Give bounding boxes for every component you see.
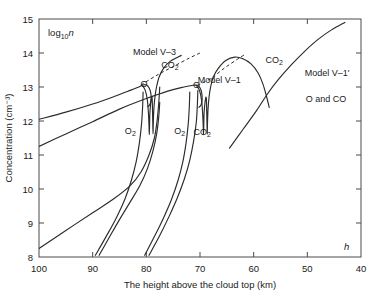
x-tick-label-100: 100	[31, 263, 47, 274]
y-tick-label-10: 10	[22, 184, 33, 195]
annotation-o-right: O	[193, 80, 200, 90]
annotation-o-left: O	[140, 79, 147, 89]
y-tick-label-12: 12	[22, 116, 33, 127]
x-axis-title: The height above the cloud top (km)	[124, 279, 276, 290]
chart-background	[0, 0, 387, 296]
y-tick-label-8: 8	[28, 252, 33, 263]
x-tick-label-90: 90	[87, 263, 98, 274]
x-tick-label-60: 60	[248, 263, 259, 274]
x-tick-label-70: 70	[195, 263, 206, 274]
y-tick-label-11: 11	[23, 150, 33, 161]
x-tick-label-80: 80	[141, 263, 152, 274]
annotation-model-v1: Model V–1	[198, 75, 241, 85]
annotation-model-v1-prime: Model V–1'	[305, 68, 350, 78]
concentration-vs-height-chart: 100908070605040 89101112131415 Model V–3…	[0, 0, 387, 296]
y-tick-label-14: 14	[22, 48, 33, 59]
x-axis-note: h	[344, 241, 349, 252]
annotation-o-and-co: O and CO	[306, 94, 347, 104]
x-tick-label-40: 40	[356, 263, 367, 274]
annotation-model-v3: Model V–3	[133, 47, 176, 57]
y-tick-label-9: 9	[28, 218, 33, 229]
x-tick-label-50: 50	[302, 263, 313, 274]
figure-container: 100908070605040 89101112131415 Model V–3…	[0, 0, 387, 296]
y-tick-label-13: 13	[22, 82, 33, 93]
y-axis-title: Concentration (cm⁻³)	[3, 94, 14, 183]
y-tick-label-15: 15	[22, 14, 33, 25]
